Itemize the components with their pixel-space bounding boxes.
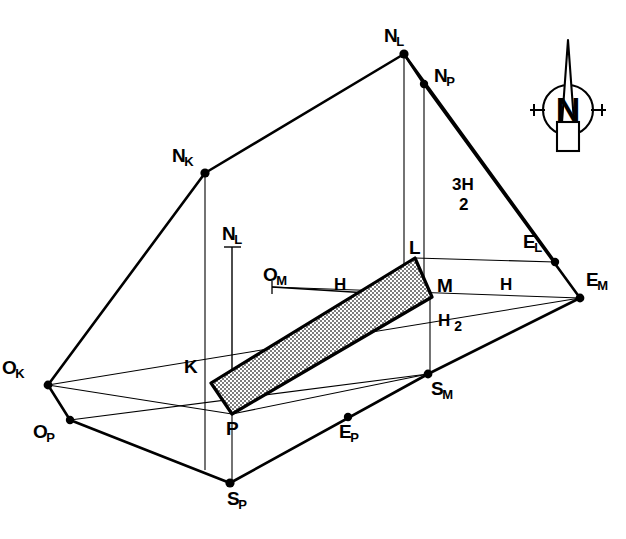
edge-nl-np (404, 54, 424, 84)
vertex-label-om: OM (263, 265, 288, 284)
edge-ok-nk (48, 173, 205, 385)
vertex-label-nl-apex: NL (384, 26, 405, 45)
edge-nk-nl (205, 54, 404, 173)
vertex-label-m: M (437, 276, 452, 295)
dimension-label-h-right: H (500, 276, 512, 293)
vertex-label-nl-reference: NL (222, 224, 243, 243)
dot-sp (225, 478, 234, 487)
diagram-canvas: N NL NP NK EL EM OK OP SM SP EP K L M P … (0, 0, 626, 539)
outer-envelope-edges (48, 54, 580, 483)
vertex-label-p: P (226, 419, 238, 438)
dimension-label-h-left: H (334, 276, 346, 293)
edge-op-ok (48, 385, 70, 420)
dot-op (66, 416, 74, 424)
vertex-label-np: NP (434, 66, 456, 85)
dot-ep (344, 413, 352, 421)
compass-rose: N (530, 40, 606, 151)
vertex-label-sm: SM (431, 379, 454, 398)
vertex-label-op: OP (33, 422, 56, 441)
diagram-vector-layer: N (0, 0, 626, 539)
vertex-label-k: K (184, 357, 197, 376)
vertex-label-em: EM (586, 270, 609, 289)
vertex-label-l: L (409, 238, 420, 257)
dot-np (420, 80, 428, 88)
edge-sp-op (70, 420, 230, 483)
construction-thin-lines (48, 54, 580, 483)
vertex-dots (44, 49, 585, 487)
dimension-label-h-over-2: H2 (438, 311, 462, 331)
dot-ok (44, 381, 53, 390)
line-l-el (415, 258, 555, 262)
compass-north-letter: N (556, 90, 581, 128)
dot-el (551, 258, 559, 266)
dot-em (576, 294, 585, 303)
vertex-label-nk: NK (172, 146, 195, 165)
vertex-label-ep: EP (339, 422, 360, 441)
dot-nl-apex (399, 49, 408, 58)
vertex-label-sp: SP (227, 489, 248, 508)
dot-nk (200, 168, 209, 177)
edge-em-sm (428, 298, 580, 374)
dimension-label-3h-over-2: 3H 2 (452, 175, 474, 214)
line-k-p-base (48, 385, 232, 414)
vertex-label-el: EL (523, 232, 543, 251)
vertex-label-ok: OK (2, 358, 26, 377)
